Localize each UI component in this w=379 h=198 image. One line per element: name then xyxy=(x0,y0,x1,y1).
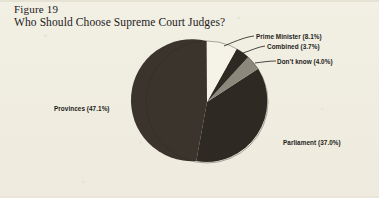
leader-line-prime-minister xyxy=(224,36,254,46)
slice-label-prime-minister: Prime Minister (8.1%) xyxy=(256,33,322,41)
slice-label-parliament: Parliament (37.0%) xyxy=(283,139,341,147)
slice-label-combined: Combined (3.7%) xyxy=(267,43,320,51)
slice-label-dont-know: Don't know (4.0%) xyxy=(277,58,333,66)
figure-page: Figure 19 Who Should Choose Supreme Cour… xyxy=(0,0,379,198)
leader-line-combined xyxy=(243,46,265,53)
pie-slice-provinces xyxy=(131,39,207,161)
pie-chart xyxy=(0,0,379,198)
leader-line-dont-know xyxy=(255,61,276,63)
slice-label-provinces: Provinces (47.1%) xyxy=(54,105,110,113)
pie-chart-svg xyxy=(0,0,379,198)
page-bottom-rule xyxy=(0,196,379,198)
